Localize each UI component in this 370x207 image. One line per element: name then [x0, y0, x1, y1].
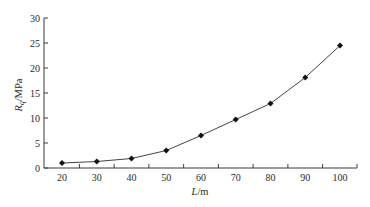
y-axis-title: Rq/MPa: [13, 78, 26, 112]
data-point-marker: [163, 148, 169, 154]
x-tick-label: 60: [196, 172, 206, 183]
x-axis-tick-labels: 2030405060708090100: [57, 172, 348, 183]
x-tick-label: 50: [161, 172, 171, 183]
data-point-marker: [94, 159, 100, 165]
x-tick-label: 40: [127, 172, 137, 183]
x-axis-ticks: [79, 164, 322, 168]
x-tick-label: 30: [92, 172, 102, 183]
y-tick-label: 20: [30, 63, 40, 74]
y-axis-title-unit: /MPa: [13, 78, 24, 101]
y-axis-tick-labels: 051015202530: [30, 13, 40, 174]
x-tick-label: 90: [300, 172, 310, 183]
data-point-marker: [198, 133, 204, 139]
x-tick-label: 80: [266, 172, 276, 183]
y-tick-label: 30: [30, 13, 40, 24]
data-point-marker: [233, 117, 239, 123]
x-tick-label: 100: [333, 172, 348, 183]
line-chart: 051015202530 2030405060708090100 L/m Rq/…: [0, 0, 370, 207]
y-tick-label: 25: [30, 38, 40, 49]
y-tick-label: 5: [35, 138, 40, 149]
data-markers: [59, 43, 343, 167]
x-tick-label: 70: [231, 172, 241, 183]
data-point-marker: [129, 156, 135, 162]
x-axis-title: L/m: [191, 186, 209, 197]
data-series-line: [62, 46, 340, 164]
y-axis-ticks: [44, 18, 48, 168]
y-tick-label: 0: [35, 163, 40, 174]
y-tick-label: 15: [30, 88, 40, 99]
y-tick-label: 10: [30, 113, 40, 124]
x-tick-label: 20: [57, 172, 67, 183]
data-point-marker: [59, 160, 65, 166]
x-axis-title-unit: /m: [197, 186, 208, 197]
